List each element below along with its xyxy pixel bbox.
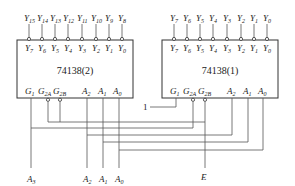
decoder-circuit-diagram: 74138(2) Y15 Y14 Y13 Y12 Y11 bbox=[0, 0, 295, 186]
chip2-g2b-bubble bbox=[58, 98, 61, 101]
svg-text:Y15: Y15 bbox=[24, 13, 35, 24]
svg-text:Y13: Y13 bbox=[50, 13, 61, 24]
chip2-g2a-bubble bbox=[46, 98, 49, 101]
svg-text:Y10: Y10 bbox=[91, 13, 102, 24]
svg-text:Y7: Y7 bbox=[170, 13, 179, 24]
const-one-label: 1 bbox=[143, 102, 148, 112]
chip-74138-2: 74138(2) Y15 Y14 Y13 Y12 Y11 bbox=[17, 13, 133, 101]
a3-label: A3 bbox=[26, 174, 36, 185]
chip1-output-pins bbox=[172, 24, 268, 41]
svg-text:Y2: Y2 bbox=[237, 13, 245, 24]
svg-text:Y4: Y4 bbox=[209, 13, 217, 24]
svg-text:Y1: Y1 bbox=[250, 13, 258, 24]
chip2-outer-output-labels: Y15 Y14 Y13 Y12 Y11 Y10 Y9 Y8 bbox=[24, 13, 126, 24]
svg-text:Y3: Y3 bbox=[223, 13, 231, 24]
e-label: E bbox=[200, 172, 207, 182]
a1-label: A1 bbox=[98, 174, 108, 185]
chip1-label: 74138(1) bbox=[202, 65, 239, 77]
svg-text:Y12: Y12 bbox=[63, 13, 74, 24]
svg-text:Y14: Y14 bbox=[37, 13, 48, 24]
chip-74138-1: 74138(1) Y7 Y6 Y5 Y4 Y3 Y2 Y1 bbox=[162, 13, 278, 101]
chip1-g2b-bubble bbox=[203, 98, 206, 101]
a0-label: A0 bbox=[114, 174, 124, 185]
external-input-labels: A3 A2 A1 A0 E 1 bbox=[26, 102, 207, 185]
chip1-outer-output-labels: Y7 Y6 Y5 Y4 Y3 Y2 Y1 Y0 bbox=[170, 13, 271, 24]
svg-text:Y5: Y5 bbox=[196, 13, 204, 24]
svg-text:Y0: Y0 bbox=[263, 13, 271, 24]
a2-label: A2 bbox=[82, 174, 92, 185]
svg-text:Y11: Y11 bbox=[77, 13, 88, 24]
chip2-label: 74138(2) bbox=[57, 65, 94, 77]
svg-text:Y9: Y9 bbox=[105, 13, 113, 24]
svg-text:Y6: Y6 bbox=[183, 13, 191, 24]
chip2-output-pins bbox=[27, 24, 123, 41]
svg-text:Y8: Y8 bbox=[118, 13, 126, 24]
chip1-g2a-bubble bbox=[191, 98, 194, 101]
